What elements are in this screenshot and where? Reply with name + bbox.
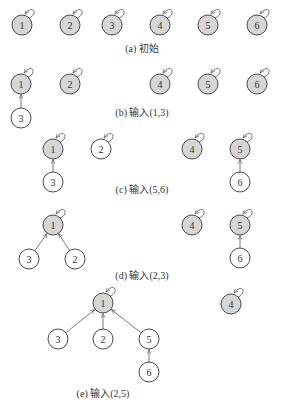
node-c-4: 4: [182, 133, 204, 159]
caption-b: (b) 输入(1,3): [115, 106, 168, 119]
node-label: 1: [101, 298, 106, 309]
edge-e-3-to-1: [66, 310, 95, 333]
node-label: 4: [190, 144, 195, 155]
node-label: 6: [255, 20, 260, 31]
node-c-3: 3: [43, 172, 63, 192]
node-b-6: 6: [247, 68, 269, 94]
node-c-5: 5: [230, 133, 252, 159]
node-a-1: 1: [12, 9, 34, 35]
node-a-5: 5: [198, 9, 220, 35]
edge-d-3-to-1: [35, 234, 47, 251]
node-label: 5: [147, 334, 152, 345]
caption-d: (d) 输入(2,3): [115, 269, 168, 282]
node-d-4: 4: [182, 209, 204, 235]
node-a-6: 6: [247, 9, 269, 35]
node-label: 6: [147, 367, 152, 378]
node-label: 4: [158, 79, 163, 90]
node-e-6: 6: [139, 362, 159, 382]
node-label: 2: [73, 254, 78, 265]
node-d-5: 5: [230, 209, 252, 235]
node-b-5: 5: [198, 68, 220, 94]
node-e-5: 5: [139, 329, 159, 349]
node-b-2: 2: [60, 68, 82, 94]
node-label: 2: [68, 20, 73, 31]
node-label: 5: [238, 220, 243, 231]
node-label: 1: [20, 20, 25, 31]
node-label: 6: [255, 79, 260, 90]
edge-e-5-to-1: [111, 309, 141, 332]
node-label: 5: [206, 20, 211, 31]
node-b-4: 4: [150, 68, 172, 94]
node-d-2: 2: [65, 249, 85, 269]
node-label: 3: [110, 20, 115, 31]
node-label: 3: [27, 254, 32, 265]
caption-a: (a) 初始: [125, 42, 159, 55]
node-label: 5: [206, 79, 211, 90]
nodes-layer: 123456124563124536145326143256: [11, 9, 269, 382]
node-b-3: 3: [11, 108, 31, 128]
node-e-1: 1: [93, 287, 115, 313]
node-b-1: 1: [11, 68, 33, 94]
node-label: 2: [101, 334, 106, 345]
node-label: 3: [19, 113, 24, 124]
node-label: 6: [238, 177, 243, 188]
node-e-4: 4: [221, 288, 243, 314]
caption-c: (c) 输入(5,6): [116, 183, 169, 196]
caption-e: (e) 输入(2,5): [77, 387, 130, 400]
node-label: 3: [56, 334, 61, 345]
node-label: 2: [68, 79, 73, 90]
node-e-2: 2: [93, 329, 113, 349]
node-a-3: 3: [102, 9, 124, 35]
union-find-diagram: 123456124563124536145326143256 (a) 初始(b)…: [0, 0, 285, 412]
node-c-2: 2: [91, 133, 113, 159]
node-label: 1: [19, 79, 24, 90]
node-label: 3: [51, 177, 56, 188]
node-d-1: 1: [43, 209, 65, 235]
node-label: 1: [51, 144, 56, 155]
node-c-6: 6: [230, 172, 250, 192]
node-label: 2: [99, 144, 104, 155]
node-a-4: 4: [150, 9, 172, 35]
node-label: 1: [51, 220, 56, 231]
node-label: 4: [229, 299, 234, 310]
node-d-3: 3: [19, 249, 39, 269]
node-label: 6: [238, 253, 243, 264]
node-label: 4: [190, 220, 195, 231]
node-e-3: 3: [48, 329, 68, 349]
node-a-2: 2: [60, 9, 82, 35]
node-c-1: 1: [43, 133, 65, 159]
node-d-6: 6: [230, 248, 250, 268]
edge-d-2-to-1: [59, 234, 70, 251]
node-label: 5: [238, 144, 243, 155]
node-label: 4: [158, 20, 163, 31]
